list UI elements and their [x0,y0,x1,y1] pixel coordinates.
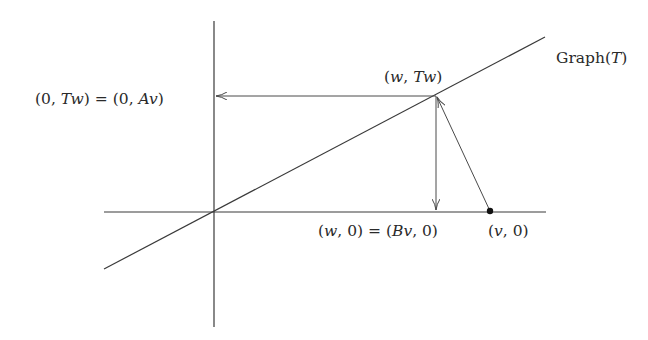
arrow-v-to-graph [437,97,490,211]
point-v0 [487,208,493,214]
graph-diagram: Graph(T) (w, Tw) (0, Tw) = (0, Av) (w, 0… [0,0,648,340]
label-w0-eq-Bv0: (w, 0) = (Bv, 0) [318,222,438,240]
label-graph-T: Graph(T) [556,49,627,67]
label-w-Tw: (w, Tw) [384,68,442,86]
label-v0: (v, 0) [488,222,529,240]
label-0-Tw-eq-0-Av: (0, Tw) = (0, Av) [35,90,164,108]
